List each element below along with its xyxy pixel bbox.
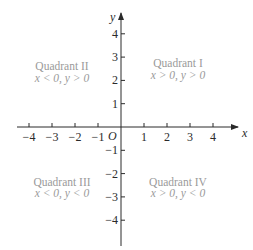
y-tick-label: 4	[112, 27, 118, 41]
y-tick-label: −4	[105, 213, 118, 227]
y-tick-label: 2	[112, 73, 118, 87]
x-axis-ticks: −4−3−2−11234	[23, 123, 216, 144]
x-tick-label: −2	[69, 130, 82, 144]
x-tick-label: −1	[92, 130, 105, 144]
y-tick-label: 1	[112, 97, 118, 111]
y-tick-label: −2	[105, 167, 118, 181]
y-axis-label: y	[109, 10, 116, 24]
x-tick-label: 3	[187, 130, 193, 144]
quadrant-1-title: Quadrant I	[153, 57, 203, 69]
coordinate-plane-diagram: −4−3−2−11234 4321−1−2−3−4 x y O Quadrant…	[0, 0, 253, 250]
x-tick-label: 2	[164, 130, 170, 144]
quadrant-2-condition: x < 0, y > 0	[34, 72, 90, 85]
x-tick-label: −4	[23, 130, 36, 144]
x-axis-label: x	[241, 126, 248, 140]
y-tick-label: −3	[105, 190, 118, 204]
quadrant-3-condition: x < 0, y < 0	[34, 187, 90, 200]
quadrant-4-condition: x > 0, y < 0	[150, 187, 206, 200]
quadrant-2-title: Quadrant II	[35, 60, 88, 72]
coordinate-plane-svg: −4−3−2−11234 4321−1−2−3−4 x y O Quadrant…	[0, 0, 253, 250]
y-tick-label: 3	[112, 50, 118, 64]
y-tick-label: −1	[105, 143, 118, 157]
quadrant-1-condition: x > 0, y > 0	[150, 69, 206, 82]
x-tick-label: 4	[210, 130, 216, 144]
x-tick-label: 1	[141, 130, 147, 144]
origin-label: O	[108, 129, 117, 143]
x-tick-label: −3	[46, 130, 59, 144]
